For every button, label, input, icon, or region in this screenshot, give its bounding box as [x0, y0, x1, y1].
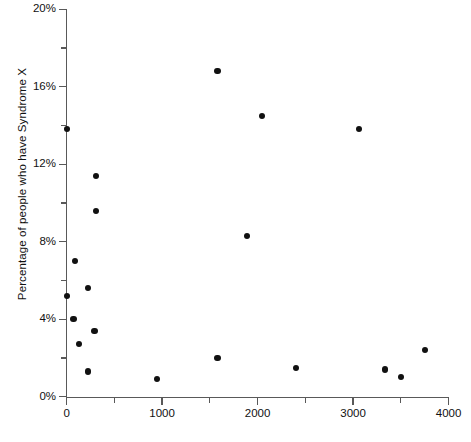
data-point [70, 316, 76, 322]
data-point [64, 293, 70, 299]
x-tick-minor [305, 397, 306, 403]
x-tick-minor [114, 397, 115, 403]
data-point [398, 374, 404, 380]
x-tick-minor [400, 397, 401, 403]
data-point [382, 366, 388, 372]
y-tick-major [59, 164, 67, 165]
x-tick-major [352, 397, 353, 405]
x-tick-label: 0 [37, 408, 97, 420]
data-point [72, 258, 78, 264]
data-point [93, 208, 99, 214]
x-tick-major [161, 397, 162, 405]
y-tick-minor [61, 202, 67, 203]
y-tick-major [59, 241, 67, 242]
x-tick-label: 1000 [132, 408, 192, 420]
data-point [85, 368, 91, 374]
x-axis-title [66, 433, 448, 442]
data-point [422, 347, 428, 353]
data-point [76, 341, 82, 347]
data-point [244, 233, 250, 239]
x-tick-minor [209, 397, 210, 403]
data-point [356, 126, 362, 132]
x-tick-major [257, 397, 258, 405]
data-point [214, 355, 220, 361]
y-tick-minor [61, 47, 67, 48]
data-point [91, 328, 97, 334]
data-point [64, 126, 70, 132]
x-tick-major [66, 397, 67, 405]
data-point [154, 376, 160, 382]
y-tick-label: 16% [4, 81, 56, 93]
y-tick-label: 4% [4, 313, 56, 325]
data-point [85, 285, 91, 291]
y-tick-label: 0% [4, 391, 56, 403]
y-tick-major [59, 319, 67, 320]
y-tick-major [59, 86, 67, 87]
y-tick-label: 12% [4, 158, 56, 170]
y-tick-minor [61, 280, 67, 281]
x-tick-label: 4000 [419, 408, 471, 420]
data-point [259, 113, 265, 119]
data-point [214, 68, 220, 74]
data-point [293, 365, 299, 371]
scatter-plot-figure: Percentage of people who have Syndrome X… [0, 0, 471, 442]
data-point [93, 173, 99, 179]
y-tick-minor [61, 357, 67, 358]
y-tick-label: 8% [4, 236, 56, 248]
y-axis-title: Percentage of people who have Syndrome X [16, 14, 28, 354]
x-tick-label: 2000 [228, 408, 288, 420]
x-tick-major [448, 397, 449, 405]
y-tick-major [59, 9, 67, 10]
x-tick-label: 3000 [323, 408, 383, 420]
y-tick-label: 20% [4, 3, 56, 15]
